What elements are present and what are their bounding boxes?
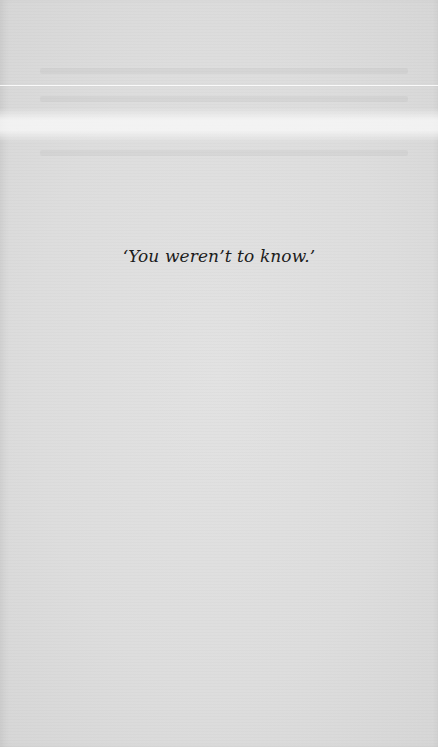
book-page: ‘You weren’t to know.’ — [0, 0, 438, 747]
bleed-through-text — [40, 96, 408, 102]
scan-artifact-line — [0, 85, 438, 86]
scan-artifact-band — [0, 108, 438, 142]
bleed-through-text — [40, 68, 408, 74]
bleed-through-text — [40, 150, 408, 156]
quote-text: ‘You weren’t to know.’ — [0, 246, 438, 266]
